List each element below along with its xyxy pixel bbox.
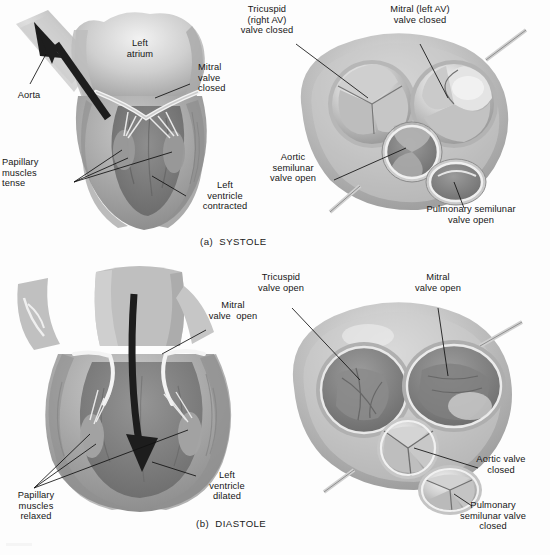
panel-systole-valves: Tricuspid(right AV)valve closed Mitral (… bbox=[272, 0, 550, 250]
label-mitral-valve-closed-sup: Mitral (left AV)valve closed bbox=[368, 4, 472, 25]
panel-diastole-longitudinal: Mitralvalve open Papillarymusclesrelaxed… bbox=[0, 258, 275, 528]
diastole-valve-leader-lines bbox=[272, 258, 550, 538]
label-pulmonary-semilunar-valve-closed: Pulmonarysemilunar valveclosed bbox=[440, 500, 546, 532]
label-left-atrium: Leftatrium bbox=[110, 38, 170, 59]
caption-systole: (a) SYSTOLE bbox=[200, 236, 267, 247]
label-left-ventricle-contracted: Leftventriclecontracted bbox=[188, 180, 262, 212]
label-aorta: Aorta bbox=[6, 90, 52, 101]
label-tricuspid-valve-open: Tricuspidvalve open bbox=[238, 272, 324, 293]
label-mitral-valve-open-sup: Mitralvalve open bbox=[398, 272, 478, 293]
panel-systole-longitudinal: Aorta Leftatrium Mitralvalveclosed Papil… bbox=[0, 0, 275, 250]
label-mitral-valve-open: Mitralvalve open bbox=[196, 300, 270, 321]
caption-diastole: (b) DIASTOLE bbox=[196, 518, 266, 529]
label-pulmonary-semilunar-valve-open: Pulmonary semilunarvalve open bbox=[396, 204, 546, 225]
label-aortic-valve-closed: Aortic valveclosed bbox=[458, 454, 544, 475]
label-papillary-muscles-tense: Papillarymusclestense bbox=[2, 157, 68, 189]
label-left-ventricle-dilated: Leftventricledilated bbox=[194, 470, 260, 502]
scan-artifact bbox=[6, 543, 32, 546]
panel-diastole-valves: Tricuspidvalve open Mitralvalve open Aor… bbox=[272, 258, 550, 538]
label-papillary-muscles-relaxed: Papillarymusclesrelaxed bbox=[0, 490, 72, 522]
cardiac-cycle-figure: Aorta Leftatrium Mitralvalveclosed Papil… bbox=[0, 0, 550, 555]
label-mitral-valve-closed: Mitralvalveclosed bbox=[198, 62, 260, 94]
label-tricuspid-valve-closed: Tricuspid(right AV)valve closed bbox=[224, 4, 310, 36]
label-aortic-semilunar-valve-open: Aorticsemilunarvalve open bbox=[254, 152, 332, 184]
